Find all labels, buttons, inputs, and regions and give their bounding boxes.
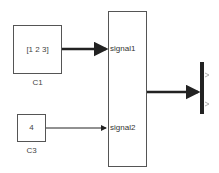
bus-out-port-2 bbox=[205, 102, 209, 106]
c3-label: C3 bbox=[17, 146, 46, 155]
c1-label: C1 bbox=[13, 78, 62, 87]
bus-out-port-1 bbox=[205, 73, 209, 77]
constant-block-c3[interactable]: 4 bbox=[17, 114, 46, 142]
c3-value: 4 bbox=[18, 123, 45, 132]
bus-creator-block[interactable]: signal1 signal2 bbox=[108, 11, 147, 167]
bus-selector-bar[interactable] bbox=[200, 62, 204, 114]
constant-block-c1[interactable]: [1 2 3] bbox=[13, 25, 62, 74]
input-port-signal2: signal2 bbox=[110, 123, 135, 132]
input-port-signal1: signal1 bbox=[110, 44, 135, 53]
c1-value: [1 2 3] bbox=[14, 45, 61, 54]
